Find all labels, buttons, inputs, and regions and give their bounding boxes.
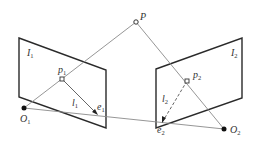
label-I1: I1: [26, 47, 34, 59]
point-p1: [60, 77, 64, 81]
label-l1: l1: [72, 97, 78, 109]
epipolar-line-l1: [62, 79, 97, 114]
baseline-O1-O2: [24, 108, 224, 129]
camera-center-O1: [22, 106, 27, 111]
epipolar-diagram: P I1 I2 p1 p2 l1 l2 e1 e2 O1 O2: [0, 0, 255, 148]
label-e1: e1: [97, 101, 105, 113]
label-O1: O1: [20, 113, 30, 125]
ray-O1-P: [24, 22, 136, 108]
diagram-canvas: P I1 I2 p1 p2 l1 l2 e1 e2 O1 O2: [0, 0, 255, 148]
label-O2: O2: [230, 124, 240, 136]
label-p2: p2: [192, 69, 201, 81]
ray-O2-P: [136, 22, 224, 129]
label-P: P: [139, 11, 146, 22]
label-p1: p1: [57, 64, 66, 76]
label-I2: I2: [230, 47, 238, 59]
label-l2: l2: [162, 93, 168, 105]
camera-center-O2: [222, 127, 227, 132]
point-p2: [185, 79, 189, 83]
image-plane-2: [156, 38, 242, 128]
point-P: [134, 20, 138, 24]
